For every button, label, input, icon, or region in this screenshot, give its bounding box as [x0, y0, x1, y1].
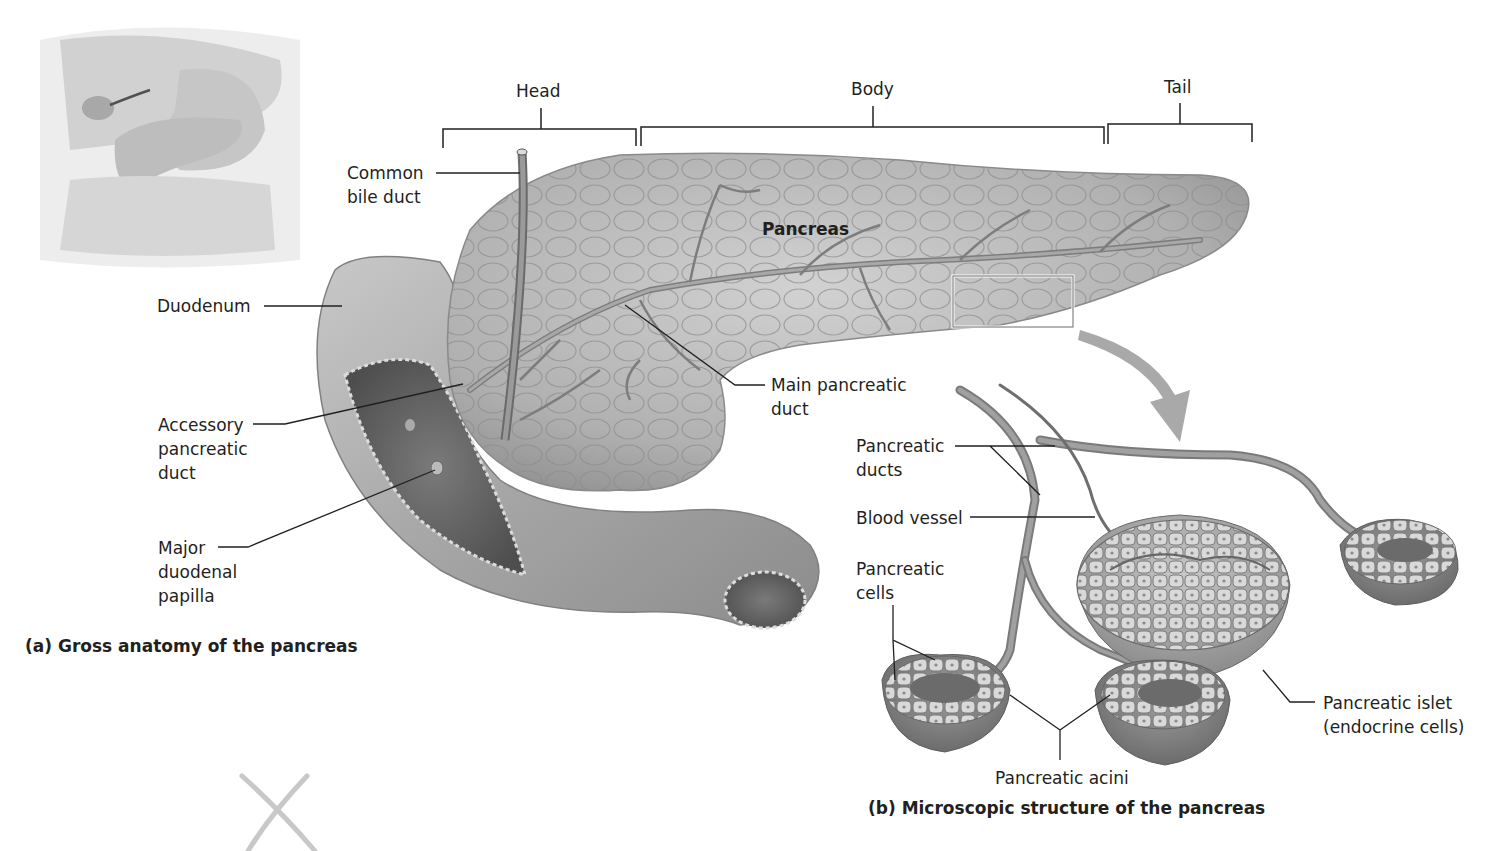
caption-panel-a: (a) Gross anatomy of the pancreas: [25, 636, 358, 656]
label-duodenum: Duodenum: [157, 294, 251, 318]
label-pancreatic-ducts-line2: ducts: [856, 458, 902, 482]
region-label-head: Head: [516, 79, 560, 103]
abdomen-inset-thumbnail: [40, 28, 300, 268]
label-common-bile-duct-line1: Common: [347, 161, 424, 185]
label-main-duct-line1: Main pancreatic: [771, 373, 907, 397]
label-main-duct-line2: duct: [771, 397, 809, 421]
label-pancreatic-islet-line2: (endocrine cells): [1323, 715, 1465, 739]
caption-panel-b: (b) Microscopic structure of the pancrea…: [868, 798, 1265, 818]
faint-x-mark-icon: [242, 776, 315, 851]
label-common-bile-duct-line2: bile duct: [347, 185, 421, 209]
label-pancreatic-ducts-line1: Pancreatic: [856, 434, 944, 458]
detail-arrow-icon: [1078, 330, 1190, 442]
label-accessory-duct-line3: duct: [158, 461, 196, 485]
label-major-papilla-line2: duodenal: [158, 560, 237, 584]
label-pancreatic-acini: Pancreatic acini: [995, 766, 1129, 790]
region-label-body: Body: [851, 77, 894, 101]
label-accessory-duct-line1: Accessory: [158, 413, 244, 437]
pancreas-organ: [448, 149, 1249, 491]
label-blood-vessel: Blood vessel: [856, 506, 963, 530]
organ-label-pancreas: Pancreas: [762, 217, 849, 241]
label-major-papilla-line1: Major: [158, 536, 205, 560]
label-accessory-duct-line2: pancreatic: [158, 437, 248, 461]
label-pancreatic-cells-line2: cells: [856, 581, 894, 605]
region-brackets: [443, 103, 1252, 148]
region-label-tail: Tail: [1164, 75, 1191, 99]
label-major-papilla-line3: papilla: [158, 584, 215, 608]
label-pancreatic-cells-line1: Pancreatic: [856, 557, 944, 581]
label-pancreatic-islet-line1: Pancreatic islet: [1323, 691, 1452, 715]
